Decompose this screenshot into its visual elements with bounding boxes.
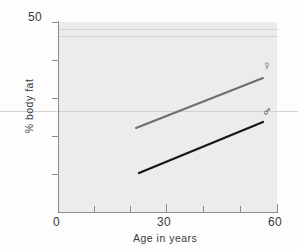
- chart-figure: 50 0 30 60 % body fat Age in years ♀ ♂: [0, 0, 298, 251]
- series-line-female: [136, 78, 263, 128]
- data-series-layer: [0, 0, 298, 251]
- series-line-male: [139, 122, 263, 173]
- mars-male-symbol: ♂: [262, 105, 272, 118]
- venus-female-symbol: ♀: [262, 59, 272, 72]
